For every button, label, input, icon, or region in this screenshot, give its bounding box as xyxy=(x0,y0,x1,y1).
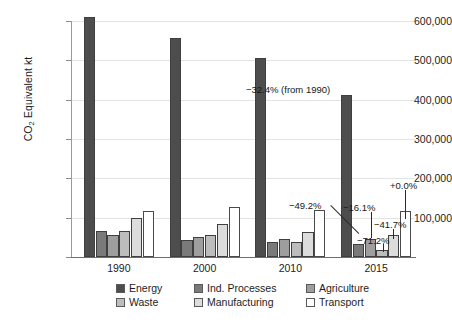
gridline xyxy=(72,100,415,101)
legend-item-label: Energy xyxy=(129,282,162,294)
legend-swatch-icon xyxy=(116,284,125,293)
chart-container: CO2 Equivalent kt 100,000200,000300,0004… xyxy=(0,0,452,322)
legend-item-transport[interactable]: Transport xyxy=(306,296,406,308)
bar-agriculture-2000 xyxy=(193,237,204,257)
y-tick-label: 500,000 xyxy=(390,54,452,66)
y-axis-label: CO2 Equivalent kt xyxy=(22,19,34,179)
y-tick-mark xyxy=(66,218,71,219)
bar-transport-2010 xyxy=(314,210,325,257)
annotation-leader-line xyxy=(383,244,384,252)
annotation-manufacturing: −41.7% xyxy=(374,219,407,230)
y-axis-label-text: CO2 Equivalent kt xyxy=(22,57,34,142)
y-tick-label: 600,000 xyxy=(390,15,452,27)
annotation-leader-line xyxy=(393,229,394,239)
y-tick-mark xyxy=(66,60,71,61)
x-tick-label-2015: 2015 xyxy=(331,262,421,274)
legend-item-label: Manufacturing xyxy=(207,296,274,308)
legend-item-waste[interactable]: Waste xyxy=(116,296,194,308)
legend-swatch-icon xyxy=(116,298,125,307)
legend-item-label: Ind. Processes xyxy=(207,282,276,294)
legend-item-ind-processes[interactable]: Ind. Processes xyxy=(194,282,306,294)
bar-ind-processes-1990 xyxy=(96,231,107,257)
annotation-waste: −71.2% xyxy=(357,235,390,246)
annotation-leader-line xyxy=(405,190,406,219)
legend-swatch-icon xyxy=(194,284,203,293)
bar-transport-2000 xyxy=(229,207,240,257)
legend-swatch-icon xyxy=(194,298,203,307)
y-tick-label: 400,000 xyxy=(390,94,452,106)
legend-swatch-icon xyxy=(306,298,315,307)
bar-agriculture-2010 xyxy=(279,239,290,257)
bar-manufacturing-1990 xyxy=(131,218,142,257)
gridline xyxy=(72,60,415,61)
bar-agriculture-1990 xyxy=(107,235,118,257)
y-tick-label: 300,000 xyxy=(390,133,452,145)
chart-legend: EnergyInd. ProcessesAgricultureWasteManu… xyxy=(116,281,406,309)
y-axis-label-subscript: 2 xyxy=(27,121,36,125)
annotation-ind-processes: −49.2% xyxy=(289,200,322,211)
gridline xyxy=(72,218,415,219)
y-tick-mark xyxy=(66,257,71,258)
y-tick-mark xyxy=(66,21,71,22)
bar-energy-1990 xyxy=(84,17,95,257)
gridline xyxy=(72,21,415,22)
bar-waste-1990 xyxy=(119,231,130,257)
legend-swatch-icon xyxy=(306,284,315,293)
x-tick-label-2000: 2000 xyxy=(160,262,250,274)
bar-energy-2015 xyxy=(341,95,352,257)
y-axis-line xyxy=(71,21,72,258)
x-axis-line xyxy=(71,257,416,258)
bar-energy-2000 xyxy=(170,38,181,257)
annotation-transport: +0.0% xyxy=(390,180,417,191)
gridline xyxy=(72,139,415,140)
y-tick-mark xyxy=(66,100,71,101)
legend-item-energy[interactable]: Energy xyxy=(116,282,194,294)
x-tick-label-2010: 2010 xyxy=(245,262,335,274)
bar-waste-2010 xyxy=(291,242,302,257)
legend-item-label: Waste xyxy=(129,296,158,308)
bar-manufacturing-2010 xyxy=(302,232,313,257)
x-tick-label-1990: 1990 xyxy=(74,262,164,274)
legend-item-agriculture[interactable]: Agriculture xyxy=(306,282,406,294)
plot-area xyxy=(72,21,415,257)
legend-item-label: Agriculture xyxy=(319,282,369,294)
bar-ind-processes-2000 xyxy=(181,240,192,257)
y-tick-mark xyxy=(66,178,71,179)
annotation-energy: −32.4% (from 1990) xyxy=(246,84,330,95)
legend-item-label: Transport xyxy=(319,296,364,308)
bar-ind-processes-2010 xyxy=(267,242,278,257)
bar-manufacturing-2000 xyxy=(217,224,228,257)
bar-waste-2000 xyxy=(205,235,216,257)
legend-item-manufacturing[interactable]: Manufacturing xyxy=(194,296,306,308)
bar-transport-1990 xyxy=(143,211,154,257)
y-tick-mark xyxy=(66,139,71,140)
gridline xyxy=(72,178,415,179)
